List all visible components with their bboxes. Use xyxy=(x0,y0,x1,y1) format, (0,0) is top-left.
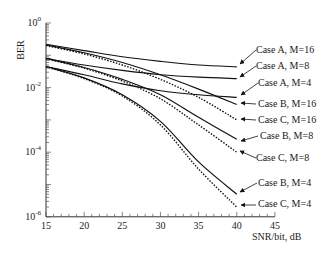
annotation-label: Case A, M=4 xyxy=(258,77,311,88)
y-axis-label: BER xyxy=(15,40,26,60)
annotation-arrow xyxy=(241,103,256,104)
x-tick-label: 15 xyxy=(41,220,51,231)
annotation-arrow xyxy=(240,66,256,77)
curve-case-b-m-8 xyxy=(46,58,237,139)
x-tick-label: 20 xyxy=(79,220,89,231)
annotation-arrow xyxy=(241,119,256,120)
annotation-label: Case C, M=4 xyxy=(258,198,311,209)
annotations: Case A, M=16Case A, M=8Case A, M=4Case B… xyxy=(240,44,316,209)
y-tick-label: 10-2 xyxy=(25,80,41,93)
ber-chart: 10010-210-410-615202530354045 Case A, M=… xyxy=(0,0,326,254)
x-tick-label: 25 xyxy=(117,220,127,231)
annotation-label: Case A, M=8 xyxy=(256,60,309,71)
annotation-arrow xyxy=(240,183,257,192)
annotation-arrow xyxy=(240,151,256,158)
curves xyxy=(46,44,237,207)
annotation-label: Case B, M=8 xyxy=(260,130,313,141)
curve-case-c-m-16 xyxy=(46,46,237,120)
annotation-label: Case C, M=16 xyxy=(258,114,316,125)
curve-case-b-m-4 xyxy=(46,67,237,195)
annotation-arrow xyxy=(240,50,256,64)
annotation-label: Case B, M=4 xyxy=(258,177,311,188)
annotation-label: Case B, M=16 xyxy=(258,98,316,109)
y-tick-label: 10-4 xyxy=(25,144,41,157)
y-tick-label: 100 xyxy=(28,15,42,28)
x-tick-label: 45 xyxy=(270,220,280,231)
annotation-label: Case A, M=16 xyxy=(256,44,314,55)
x-tick-label: 30 xyxy=(155,220,165,231)
annotation-arrow xyxy=(241,136,258,141)
annotation-label: Case C, M=8 xyxy=(256,152,309,163)
y-tick-label: 10-6 xyxy=(25,209,41,222)
annotation-arrow xyxy=(241,83,258,95)
x-tick-label: 35 xyxy=(194,220,204,231)
x-tick-label: 40 xyxy=(232,220,242,231)
x-axis-label: SNR/bit, dB xyxy=(252,231,302,242)
